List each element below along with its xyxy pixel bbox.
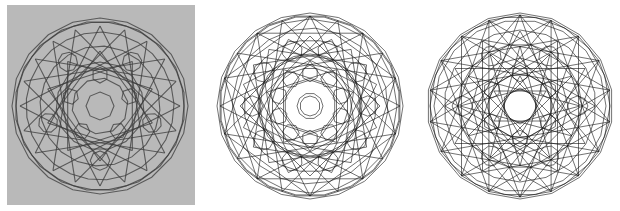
photo-wireframe-model-panel	[7, 5, 195, 205]
projection-a-line-drawing	[210, 5, 415, 207]
projection-b-line-drawing	[418, 5, 618, 207]
projection-b-panel	[418, 5, 618, 207]
projection-a-panel	[210, 5, 415, 207]
photo-wireframe-model-image	[7, 5, 195, 205]
